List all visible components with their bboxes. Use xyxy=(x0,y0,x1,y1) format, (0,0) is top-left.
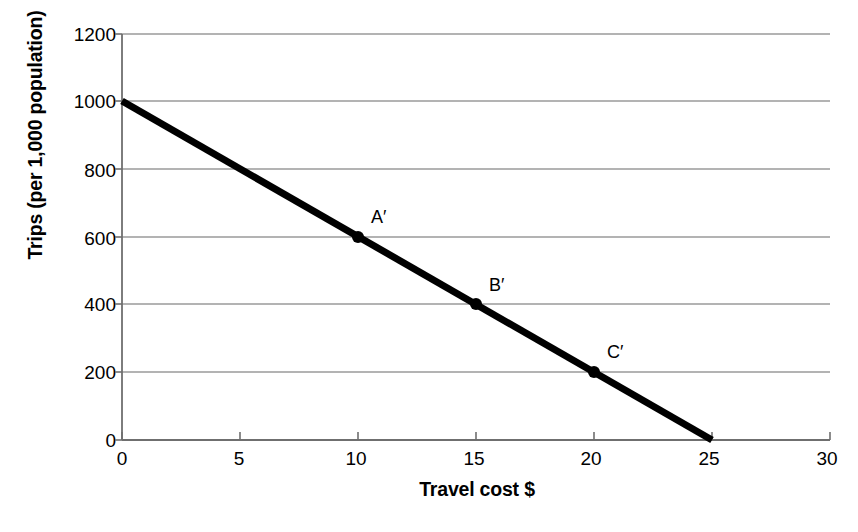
x-axis-ticks xyxy=(122,432,830,440)
plot-area xyxy=(0,0,858,532)
data-point-c-prime xyxy=(588,366,600,378)
demand-curve-line xyxy=(122,101,712,440)
data-point-a-prime xyxy=(352,231,364,243)
data-label-a-prime: A′ xyxy=(371,208,386,226)
data-label-c-prime: C′ xyxy=(607,343,623,361)
gridlines xyxy=(122,34,830,372)
chart-container: Trips (per 1,000 population) 1200 1000 8… xyxy=(0,0,858,532)
x-axis-title: Travel cost $ xyxy=(122,478,832,501)
y-axis-ticks xyxy=(115,34,122,440)
data-point-b-prime xyxy=(470,298,482,310)
data-label-b-prime: B′ xyxy=(489,276,504,294)
